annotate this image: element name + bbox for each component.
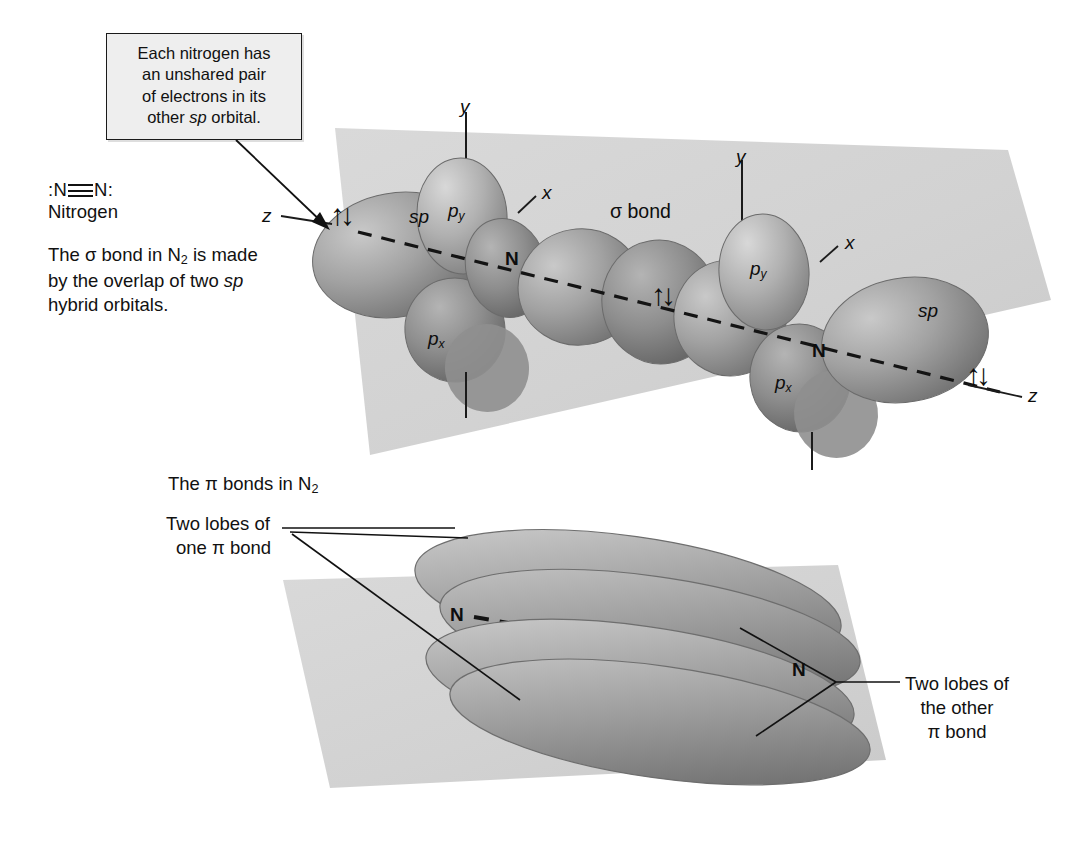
- upper-axes-behind: [466, 112, 742, 252]
- pi-lobe-lower-back: [418, 597, 862, 776]
- upper-bond-axis: [358, 232, 1000, 392]
- callout-leader: [236, 140, 330, 230]
- label-px-left-sub: x: [439, 337, 445, 351]
- label-py-left: py: [448, 200, 465, 223]
- pi-lobe-lower-front: [442, 637, 877, 807]
- sigma-par-italic: sp: [224, 270, 244, 291]
- label-z-right: z: [1028, 385, 1038, 407]
- pi-heading-pre: The π bonds in N: [168, 473, 311, 494]
- right-nitrogen-orbitals: [715, 211, 998, 463]
- structural-formula: :NN:: [48, 178, 113, 201]
- pi-right-line-1: Two lobes of: [905, 672, 1009, 696]
- callout-line-1: Each nitrogen has: [115, 43, 293, 64]
- pi-heading-sub: 2: [311, 482, 318, 496]
- label-py-left-base: p: [448, 200, 459, 221]
- lower-bond-axis: [474, 617, 790, 672]
- pi-lobes-lower: [418, 597, 878, 807]
- electron-pair-center: ↑↓: [651, 278, 671, 312]
- callout-line-4: other sp orbital.: [115, 107, 293, 128]
- label-n-lower-left: N: [450, 604, 464, 626]
- px-lobe-right-lower: [743, 318, 857, 439]
- pi-lobes-upper: [406, 507, 868, 721]
- callout-line-2: an unshared pair: [115, 64, 293, 85]
- callout-line-4-pre: other: [147, 108, 189, 126]
- label-px-left: px: [428, 328, 445, 351]
- label-sigma-bond: σ bond: [610, 200, 671, 223]
- triple-bond-icon: [68, 184, 93, 197]
- electron-pair-left: ↑↓: [330, 198, 350, 232]
- label-y-left: y: [460, 96, 470, 118]
- callout-box: Each nitrogen has an unshared pair of el…: [106, 33, 302, 140]
- pi-right-line-3: π bond: [905, 720, 1009, 744]
- pi-left-label: Two lobes of one π bond: [166, 512, 271, 560]
- pi-lobe-upper-back: [406, 507, 849, 690]
- label-n-left: N: [505, 248, 519, 270]
- upper-axes-front: [466, 372, 812, 470]
- sigma-par-sub: 2: [181, 253, 188, 267]
- label-x-right: x: [845, 232, 855, 254]
- electron-pair-right: ↑↓: [966, 358, 986, 392]
- z-axis-left-line: [281, 216, 332, 224]
- pi-right-leaders: [740, 628, 900, 736]
- label-z-left: z: [262, 205, 272, 227]
- pi-left-leaders: [282, 528, 520, 700]
- label-px-right: px: [775, 372, 792, 395]
- x-leader-right: [820, 246, 838, 262]
- figure-canvas: Each nitrogen has an unshared pair of el…: [0, 0, 1087, 858]
- px-lobe-right-back: [788, 365, 883, 464]
- pi-right-line-2: the other: [905, 696, 1009, 720]
- pi-left-line-1: Two lobes of: [166, 513, 270, 534]
- formula-n-right: N:: [94, 179, 113, 200]
- label-px-right-sub: x: [786, 381, 792, 395]
- callout-line-3: of electrons in its: [115, 86, 293, 107]
- nitrogen-caption: Nitrogen: [48, 200, 118, 223]
- left-nitrogen-orbitals: [303, 155, 557, 417]
- sigma-par-pre: The σ bond in N: [48, 244, 181, 265]
- sigma-bond-paragraph: The σ bond in N2 is made by the overlap …: [48, 243, 258, 318]
- label-y-right: y: [736, 146, 746, 168]
- label-n-lower-right: N: [792, 659, 806, 681]
- label-px-left-base: p: [428, 328, 439, 349]
- label-sp-right: sp: [918, 300, 938, 322]
- formula-n-left: :N: [48, 179, 67, 200]
- sigma-par-post: hybrid orbitals.: [48, 294, 168, 315]
- pi-bonds-heading: The π bonds in N2: [168, 472, 318, 498]
- callout-line-4-post: orbital.: [207, 108, 261, 126]
- callout-line-4-italic: sp: [189, 108, 206, 126]
- label-py-right-base: p: [750, 258, 761, 279]
- label-n-right: N: [812, 340, 826, 362]
- upper-plane-group: [335, 128, 1051, 455]
- sigma-lobe-c: [665, 251, 795, 385]
- label-py-right-sub: y: [761, 267, 767, 281]
- pi-left-line-2: one π bond: [166, 536, 271, 560]
- sigma-lobe-a: [509, 219, 651, 355]
- pi-lobe-upper-front: [432, 547, 868, 721]
- upper-sigma-plane: [335, 128, 1051, 455]
- label-sp-left: sp: [409, 206, 429, 228]
- x-leader-left: [518, 196, 536, 213]
- px-lobe-left-back: [439, 319, 534, 418]
- sp-lobe-right: [812, 264, 999, 415]
- label-py-right: py: [750, 258, 767, 281]
- label-x-left: x: [542, 182, 552, 204]
- label-py-left-sub: y: [459, 209, 465, 223]
- label-px-right-base: p: [775, 372, 786, 393]
- px-lobe-left-lower: [398, 272, 512, 389]
- pi-right-label: Two lobes ofthe otherπ bond: [905, 672, 1009, 744]
